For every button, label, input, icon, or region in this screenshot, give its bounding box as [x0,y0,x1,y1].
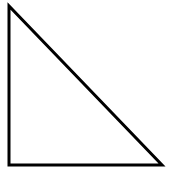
diagram-canvas [0,0,192,172]
right-triangle [9,6,162,165]
